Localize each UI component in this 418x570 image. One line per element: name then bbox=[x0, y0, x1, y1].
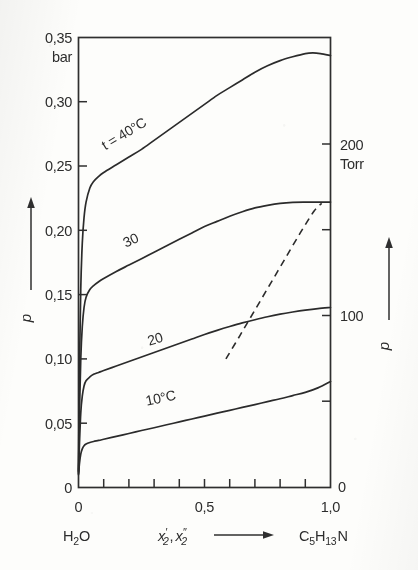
right-tick-label-2: 0 bbox=[338, 479, 346, 495]
bottom-tick-label-2: 1,0 bbox=[321, 499, 340, 515]
right-axis: 200 Torr 100 0 p bbox=[322, 137, 393, 496]
left-species-tail: O bbox=[79, 528, 90, 544]
left-tick-label-4: 0,15 bbox=[45, 287, 72, 303]
right-tick-label-0: 200 bbox=[340, 137, 364, 153]
pxy-chart: 0,35 bar 0,30 0,25 0,20 0,15 0,10 0,05 0… bbox=[0, 0, 418, 570]
curve-40c bbox=[79, 53, 331, 471]
figure-container: 0,35 bar 0,30 0,25 0,20 0,15 0,10 0,05 0… bbox=[0, 0, 418, 570]
left-tick-label-5: 0,10 bbox=[45, 351, 72, 367]
right-axis-unit: Torr bbox=[340, 156, 364, 172]
left-tick-label-1: 0,30 bbox=[45, 94, 72, 110]
bottom-axis: 0 0,5 1,0 H2O x′2, x″2 C5H13N bbox=[63, 479, 348, 547]
left-tick-label-0: 0,35 bbox=[45, 30, 72, 46]
bottom-axis-symbol: x′2, x″2 bbox=[157, 526, 187, 547]
right-axis-arrowhead bbox=[385, 237, 393, 248]
curve-label-30c: 30 bbox=[120, 229, 141, 250]
left-tick-label-2: 0,25 bbox=[45, 158, 72, 174]
right-axis-symbol: p bbox=[375, 342, 392, 351]
left-axis-arrowhead bbox=[27, 197, 35, 208]
curve-30c bbox=[79, 202, 331, 472]
curve-label-40c: t = 40°C bbox=[98, 114, 149, 153]
dashed-tie-locus-line bbox=[226, 203, 322, 359]
right-axis-ticks bbox=[322, 144, 331, 401]
curve-20c bbox=[79, 308, 331, 474]
curve-label-20c: 20 bbox=[146, 329, 166, 349]
curve-label-10c: 10°C bbox=[144, 387, 177, 409]
right-tick-label-1: 100 bbox=[340, 308, 364, 324]
left-species-label: H2O bbox=[63, 528, 90, 547]
curves-group bbox=[79, 53, 331, 475]
right-axis-symbol-group: p bbox=[375, 237, 393, 351]
bottom-axis-ticks bbox=[104, 479, 306, 488]
right-species-label: C5H13N bbox=[299, 528, 348, 547]
bottom-axis-arrowhead bbox=[263, 531, 274, 539]
left-axis-symbol-group: p bbox=[17, 197, 35, 323]
left-axis-unit: bar bbox=[52, 49, 73, 65]
left-tick-label-6: 0,05 bbox=[45, 416, 72, 432]
left-species-base: H bbox=[63, 528, 73, 544]
bottom-axis-arrow bbox=[214, 531, 274, 539]
left-tick-label-3: 0,20 bbox=[45, 223, 72, 239]
bottom-tick-label-0: 0 bbox=[75, 499, 83, 515]
left-axis: 0,35 bar 0,30 0,25 0,20 0,15 0,10 0,05 0… bbox=[17, 30, 87, 496]
left-tick-label-7: 0 bbox=[64, 480, 72, 496]
curve-10c bbox=[79, 381, 331, 474]
bottom-tick-label-1: 0,5 bbox=[195, 499, 214, 515]
left-axis-symbol: p bbox=[17, 314, 34, 323]
